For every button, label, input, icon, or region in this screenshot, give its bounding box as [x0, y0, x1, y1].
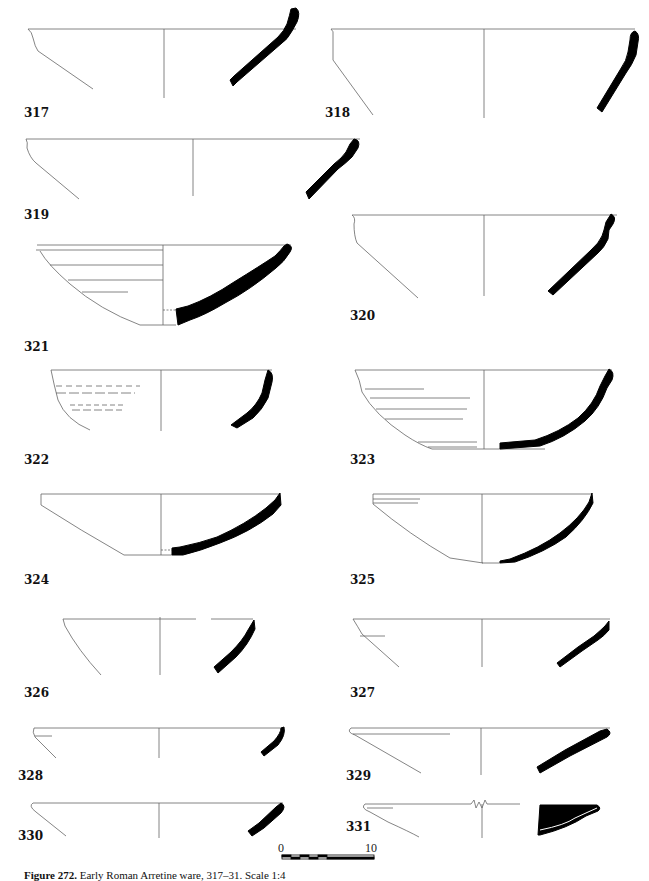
vessel-label-318: 318	[325, 106, 350, 120]
vessel-label-326: 326	[24, 686, 49, 700]
vessel-319-section	[306, 139, 359, 199]
vessel-label-323: 323	[350, 453, 375, 467]
vessel-329-section	[537, 729, 610, 773]
vessel-label-319: 319	[24, 208, 49, 222]
vessel-320-drawing	[352, 215, 617, 298]
vessel-325-section	[500, 493, 593, 563]
vessel-331-section	[538, 805, 600, 835]
vessel-323-section	[500, 369, 613, 449]
vessel-label-324: 324	[24, 573, 49, 587]
vessel-321-section	[176, 244, 291, 325]
vessel-label-320: 320	[350, 309, 375, 323]
figure-caption: Figure 272. Early Roman Arretine ware, 3…	[24, 869, 286, 881]
vessel-328-section	[261, 727, 284, 756]
vessel-327-section	[557, 621, 609, 667]
vessel-label-327: 327	[350, 686, 375, 700]
vessel-label-328: 328	[18, 769, 43, 783]
vessel-label-331: 331	[346, 820, 371, 834]
vessel-label-317: 317	[24, 106, 49, 120]
vessel-331-drawing	[363, 800, 520, 838]
vessel-322-section	[231, 370, 273, 428]
vessel-328-drawing	[33, 728, 284, 758]
figure-number: Figure 272.	[24, 869, 77, 881]
scale-end-label: 10	[365, 841, 377, 856]
vessel-318-drawing	[331, 29, 635, 118]
vessel-327-drawing	[353, 619, 610, 667]
vessel-318-section	[597, 31, 639, 112]
vessel-label-325: 325	[350, 573, 375, 587]
vessel-320-section	[548, 214, 615, 295]
scale-start-label: 0	[278, 841, 284, 856]
vessel-325-drawing	[373, 494, 592, 563]
vessel-label-322: 322	[24, 453, 49, 467]
vessel-326-section	[214, 620, 255, 673]
vessel-330-drawing	[31, 803, 283, 838]
vessel-label-330: 330	[18, 829, 43, 843]
figure-caption-text: Early Roman Arretine ware, 317–31. Scale…	[80, 869, 286, 881]
vessel-330-section	[248, 803, 284, 836]
vessel-label-321: 321	[24, 340, 49, 354]
vessel-317-section	[230, 8, 299, 86]
vessel-324-section	[172, 493, 281, 555]
vessel-323-drawing	[355, 370, 612, 449]
scale-bar	[282, 855, 374, 859]
vessel-label-329: 329	[346, 769, 371, 783]
